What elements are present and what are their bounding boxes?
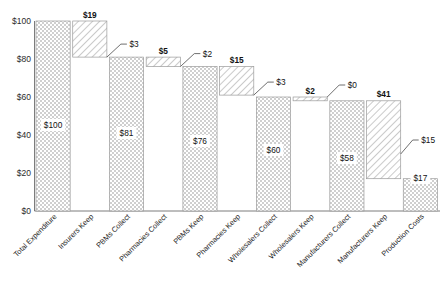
bar-delta-3 (146, 57, 180, 67)
delta-label-3: $5 (159, 46, 169, 56)
bar-total-0 (36, 21, 70, 211)
value-label-6: $60 (267, 145, 281, 155)
y-tick-label: $100 (12, 16, 31, 26)
value-label-0: $100 (44, 120, 63, 130)
delta-label-9: $41 (377, 89, 391, 99)
bar-delta-5 (220, 67, 254, 96)
value-label-8: $58 (340, 153, 354, 163)
y-tick-label: $0 (22, 206, 32, 216)
chart-canvas: $0$20$40$60$80$100 $3$2$3$0$15 $19$5$15$… (0, 0, 443, 301)
value-label-4: $76 (193, 136, 207, 146)
y-tick-label: $40 (17, 130, 31, 140)
bar-delta-1 (73, 21, 107, 57)
value-label-10: $17 (413, 173, 427, 183)
callout-label-4: $15 (421, 135, 435, 145)
callout-label-3: $0 (348, 80, 358, 90)
delta-label-1: $19 (83, 10, 97, 20)
y-tick-label: $80 (17, 54, 31, 64)
callout-label-1: $2 (203, 49, 213, 59)
callout-label-2: $3 (276, 77, 286, 87)
y-tick-label: $20 (17, 168, 31, 178)
callout-label-0: $3 (129, 39, 139, 49)
delta-label-5: $15 (230, 55, 244, 65)
delta-label-7: $2 (306, 86, 316, 96)
bar-delta-7 (293, 97, 327, 101)
waterfall-chart: $0$20$40$60$80$100 $3$2$3$0$15 $19$5$15$… (0, 0, 443, 301)
bar-delta-9 (367, 101, 401, 179)
value-label-2: $81 (120, 128, 134, 138)
y-tick-label: $60 (17, 92, 31, 102)
